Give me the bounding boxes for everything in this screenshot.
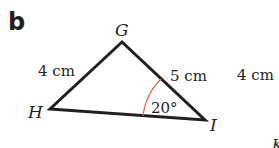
vertex-g-label: G	[115, 20, 129, 40]
side-gh-length: 4 cm	[38, 62, 75, 80]
vertex-k-label: K	[271, 136, 279, 148]
part-label: b	[8, 8, 25, 36]
triangle-diagram: b G H I 4 cm 5 cm 20° 4 cm K	[0, 0, 279, 148]
angle-i-label: 20°	[151, 99, 178, 117]
adjacent-side-length: 4 cm	[237, 66, 274, 84]
vertex-i-label: I	[209, 115, 217, 135]
vertex-h-label: H	[27, 102, 44, 122]
side-gi-length: 5 cm	[170, 67, 207, 85]
